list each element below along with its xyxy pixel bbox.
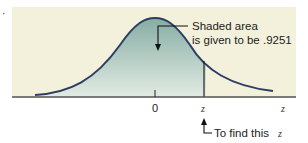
annotation-area-line2: is given to be .9251 xyxy=(192,34,292,46)
find-leader-line xyxy=(204,124,212,133)
find-z-label: To find this xyxy=(214,127,269,139)
up-arrow-icon xyxy=(201,118,207,125)
axis-label-z: z xyxy=(280,103,285,114)
corner-mark: · xyxy=(2,8,5,19)
normal-curve-diagram: Shaded area is given to be .9251 0 z z T… xyxy=(0,0,308,143)
annotation-area-line1: Shaded area xyxy=(192,20,258,32)
tick-label-z: z xyxy=(200,103,205,114)
find-z-var: z xyxy=(277,128,282,139)
tick-label-zero: 0 xyxy=(152,102,158,114)
